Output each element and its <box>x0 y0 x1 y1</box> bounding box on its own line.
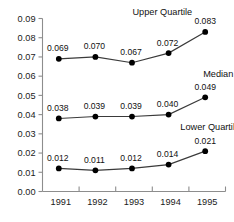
y-tick-label: 0.04 <box>18 110 36 120</box>
data-point-marker <box>166 162 172 168</box>
point-label-group: 0.0690.0700.0670.0720.0830.0380.0390.039… <box>47 16 216 164</box>
data-point-marker <box>202 94 208 100</box>
y-tick-label: 0.06 <box>18 71 36 81</box>
data-point-label: 0.012 <box>47 153 69 163</box>
data-point-marker <box>56 116 62 122</box>
data-point-label: 0.070 <box>84 41 106 51</box>
y-tick-label: 0.07 <box>18 52 36 62</box>
x-tick-label-group: 19911992199319941995 <box>51 197 218 207</box>
data-point-marker <box>129 166 135 172</box>
series-annotation-label: Lower Quartile <box>180 122 234 132</box>
y-tick-label: 0.05 <box>18 91 36 101</box>
data-point-label: 0.038 <box>47 103 69 113</box>
data-point-marker <box>93 114 99 120</box>
y-tick-label: 0.00 <box>18 187 36 197</box>
data-point-marker <box>129 60 135 66</box>
x-tick-label: 1993 <box>124 197 144 207</box>
y-tick-label: 0.09 <box>18 14 36 24</box>
data-point-marker <box>56 166 62 172</box>
series-annotation-label: Upper Quartile <box>132 7 192 17</box>
data-point-marker <box>166 112 172 118</box>
y-tick-label: 0.03 <box>18 129 36 139</box>
x-tick-label: 1995 <box>197 197 217 207</box>
data-point-label: 0.069 <box>47 43 69 53</box>
series-annotation-group: Upper QuartileMedianLower Quartile <box>132 7 234 132</box>
data-point-marker <box>202 148 208 154</box>
data-point-label: 0.067 <box>120 47 142 57</box>
data-point-label: 0.083 <box>194 16 216 26</box>
data-point-label: 0.011 <box>84 155 105 165</box>
data-point-marker <box>93 167 99 173</box>
y-tick-label: 0.08 <box>18 33 36 43</box>
data-point-marker <box>129 114 135 120</box>
data-point-label: 0.072 <box>157 38 179 48</box>
series-annotation-label: Median <box>203 69 233 79</box>
data-point-marker <box>93 54 99 60</box>
data-point-marker <box>56 56 62 62</box>
y-tick-group <box>39 19 43 192</box>
data-point-label: 0.012 <box>120 153 142 163</box>
x-tick-label: 1992 <box>87 197 107 207</box>
y-tick-label-group: 0.000.010.020.030.040.050.060.070.080.09 <box>18 14 36 197</box>
data-point-label: 0.021 <box>194 136 216 146</box>
data-point-label: 0.039 <box>84 101 106 111</box>
x-tick-group <box>79 187 225 192</box>
data-point-marker <box>166 50 172 56</box>
x-tick-label: 1994 <box>160 197 180 207</box>
x-tick-label: 1991 <box>51 197 71 207</box>
data-point-label: 0.014 <box>157 149 179 159</box>
chart-canvas: 0.000.010.020.030.040.050.060.070.080.09… <box>0 0 234 222</box>
y-tick-label: 0.02 <box>18 148 36 158</box>
y-tick-label: 0.01 <box>18 168 36 178</box>
data-point-label: 0.040 <box>157 99 179 109</box>
data-point-label: 0.049 <box>194 82 216 92</box>
data-point-label: 0.039 <box>120 101 142 111</box>
quartile-trend-chart: 0.000.010.020.030.040.050.060.070.080.09… <box>0 0 234 222</box>
data-point-marker <box>202 29 208 35</box>
